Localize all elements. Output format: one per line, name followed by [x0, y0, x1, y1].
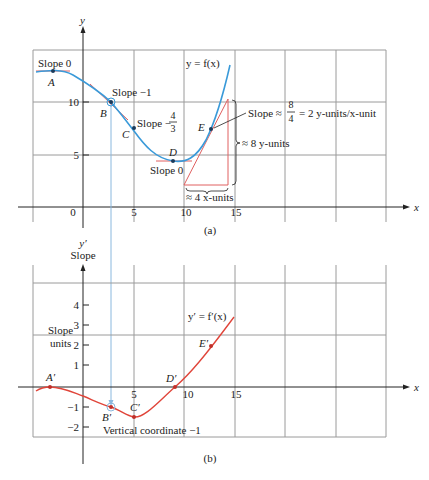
slope-label-d: Slope 0 [150, 164, 184, 176]
slope-e-denominator: 4 [289, 113, 294, 124]
point-b [109, 100, 113, 104]
grid-b [33, 265, 386, 437]
x-tick-10: 10 [181, 206, 193, 218]
units-label-1: Slope [48, 324, 73, 336]
y-tick-2: 2 [74, 339, 80, 351]
vertical-coordinate-annotation: Vertical coordinate −1 [103, 424, 201, 436]
y-prime-axis-sublabel: Slope [70, 249, 95, 261]
slope-label-e: Slope ≈ [248, 107, 282, 119]
slope-c-numerator: 4 [171, 110, 176, 121]
point-c [132, 126, 136, 130]
point-d [171, 159, 175, 163]
point-c-prime [132, 415, 136, 419]
curve-f [36, 65, 230, 161]
leader-line-e [214, 113, 246, 128]
x-tick-15-b: 15 [231, 388, 243, 400]
curve-f-label: y = f(x) [186, 57, 220, 70]
slope-label-b: Slope −1 [112, 86, 152, 98]
slope-label-c: Slope − [137, 117, 171, 129]
point-d-prime [173, 385, 177, 389]
x-tick-10-b: 10 [183, 388, 195, 400]
point-b-prime [109, 405, 113, 409]
y-tick-3: 3 [74, 319, 80, 331]
y-axis-label: y [79, 14, 85, 26]
point-e [209, 127, 213, 131]
caption-a: (a) [204, 224, 217, 237]
point-a-prime [48, 385, 52, 389]
y-axis-arrow-icon [81, 26, 86, 33]
point-e-prime [209, 344, 213, 348]
x-axis-label: x [413, 201, 419, 213]
slope-c-denominator: 3 [171, 123, 176, 134]
label-a: A [47, 76, 55, 88]
slope-e-suffix: = 2 y-units/x-unit [299, 107, 376, 119]
label-c: C [122, 128, 130, 140]
rise-bracket [232, 100, 240, 185]
y-tick-neg2: −2 [67, 421, 79, 433]
derivative-diagram: y x 0 5 10 15 10 5 A B C [0, 0, 429, 480]
y-tick-4: 4 [74, 299, 80, 311]
label-b-prime: B′ [102, 411, 112, 423]
label-e-prime: E′ [198, 337, 209, 349]
point-a [51, 69, 55, 73]
y-prime-axis-label: y′ [78, 237, 87, 249]
y-tick-1: 1 [74, 359, 80, 371]
x-tick-5: 5 [131, 206, 137, 218]
rise-label: ≈ 8 y-units [242, 137, 290, 149]
x-tick-5-b: 5 [131, 388, 137, 400]
slope-e-numerator: 8 [289, 99, 294, 110]
caption-b: (b) [204, 452, 217, 465]
y-tick-10: 10 [68, 96, 80, 108]
y-tick-5: 5 [74, 149, 80, 161]
x-axis-arrow-b-icon [403, 385, 410, 390]
y-prime-axis-arrow-icon [81, 264, 86, 271]
curve-f-prime-label: y′ = f′(x) [188, 310, 227, 323]
label-b: B [100, 107, 107, 119]
y-tick-neg1: −1 [67, 401, 79, 413]
label-d: D [168, 146, 177, 158]
x-tick-0: 0 [70, 206, 76, 218]
x-axis-arrow-icon [403, 205, 410, 210]
label-e: E [197, 121, 205, 133]
x-axis-label-b: x [413, 381, 419, 393]
label-a-prime: A′ [45, 371, 56, 383]
label-c-prime: C′ [130, 401, 140, 413]
slope-label-a: Slope 0 [38, 57, 72, 69]
units-label-2: units [50, 337, 71, 349]
run-label: ≈ 4 x-units [186, 191, 234, 203]
figure-b: y′ Slope x Slope units 4 3 2 1 −1 −2 5 1… [18, 237, 419, 465]
label-d-prime: D′ [165, 372, 177, 384]
x-tick-15: 15 [231, 206, 243, 218]
